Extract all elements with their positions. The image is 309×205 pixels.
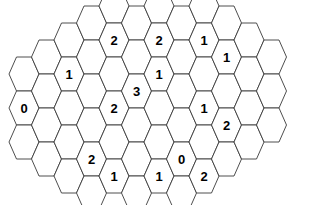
hex-cell-number: 2 (110, 33, 117, 48)
hex-cell-number: 2 (110, 101, 117, 116)
hex-cell-number: 2 (88, 152, 95, 167)
hex-cell-number: 1 (155, 169, 162, 184)
hex-cell-layer: 0122213211011212 (9, 0, 287, 205)
hex-cell-number: 1 (200, 101, 207, 116)
hex-cell-number: 1 (223, 50, 230, 65)
hex-cell-number: 1 (155, 67, 162, 82)
hex-puzzle-board: 0122213211011212 (0, 0, 309, 205)
hex-cell-number: 2 (155, 33, 162, 48)
hex-cell-number: 3 (133, 84, 140, 99)
hex-cell-number: 2 (223, 118, 230, 133)
hex-cell-number: 0 (178, 152, 185, 167)
hex-cell-number: 1 (110, 169, 117, 184)
hex-cell-number: 1 (200, 33, 207, 48)
hex-cell-number: 1 (65, 67, 72, 82)
hex-cell-number: 0 (20, 101, 27, 116)
hex-cell-number: 2 (200, 169, 207, 184)
hex-grid-svg: 0122213211011212 (0, 0, 309, 205)
